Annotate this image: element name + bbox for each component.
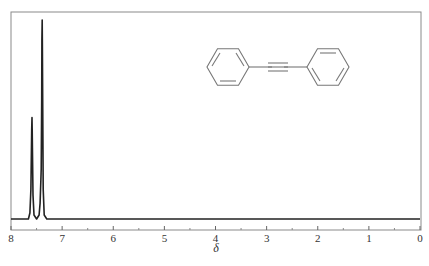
triple-bond — [268, 63, 288, 71]
tick-label: 0 — [417, 232, 423, 244]
left-benzene-ring — [207, 49, 249, 85]
tick-label: 1 — [366, 232, 372, 244]
tick-label: 7 — [59, 232, 65, 244]
diphenylacetylene-structure — [207, 49, 349, 85]
x-axis-title: δ — [213, 241, 219, 255]
plot-frame — [11, 12, 421, 230]
tick-label: 5 — [162, 232, 168, 244]
tick-label: 2 — [315, 232, 321, 244]
tick-label: 6 — [111, 232, 117, 244]
x-axis-ticks — [11, 226, 420, 230]
spectrum-line — [11, 20, 420, 219]
tick-label: 8 — [8, 232, 14, 244]
tick-label: 3 — [264, 232, 270, 244]
nmr-chart: 876543210 δ — [0, 0, 429, 266]
right-benzene-ring — [307, 49, 349, 85]
